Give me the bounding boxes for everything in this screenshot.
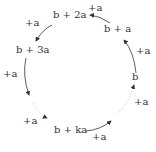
arrow-b-plus-ka-right xyxy=(86,121,111,131)
arrow-b-plus-3a-down xyxy=(25,58,29,95)
edge-label-6: +a xyxy=(134,96,148,107)
node-b-plus-a: b + a xyxy=(104,23,131,34)
edge-label-2: +a xyxy=(25,17,39,28)
arrow-b-to-b-plus-a xyxy=(124,40,136,73)
arrow-b-plus-a-to-b-plus-2a xyxy=(90,15,110,23)
dotted-arc-lower-right xyxy=(117,85,134,114)
node-b-plus-2a: b + 2a xyxy=(53,9,86,20)
node-b-plus-ka: b + ka xyxy=(54,124,87,135)
edge-label-0: +a xyxy=(136,45,150,56)
edge-label-3: +a xyxy=(3,68,17,79)
node-b-plus-3a: b + 3a xyxy=(16,44,49,55)
edge-label-4: +a xyxy=(23,115,37,126)
node-b: b xyxy=(132,71,138,82)
edge-label-1: +a xyxy=(88,2,102,13)
edge-label-5: +a xyxy=(92,131,106,142)
